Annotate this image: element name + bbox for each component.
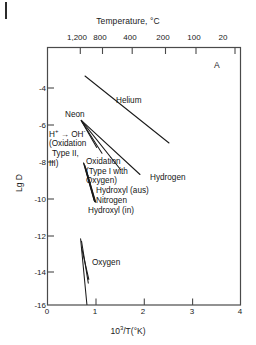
annotation-oxygen: Oxygen [92, 258, 120, 268]
annotation-oh-line4: III) [49, 159, 86, 169]
top-axis-ticks [80, 48, 235, 55]
annotation-neon: Neon [65, 110, 85, 120]
annotation-oh-block: H+ → OH- (Oxidation Type II, III) [49, 127, 86, 168]
annotation-nitrogen: Nitrogen [96, 196, 127, 206]
annotation-hydroxyl-aus: Hydroxyl (aus) [96, 186, 149, 196]
annotation-oxidation-line3: Oxygen) [86, 176, 128, 186]
axes-frame [48, 48, 241, 306]
left-axis-ticks [48, 88, 55, 272]
line-helium [85, 76, 169, 143]
annotation-oxidation-block: Oxidation (Type I with Oxygen) [86, 157, 128, 186]
annotation-oxidation-line2: (Type I with [86, 167, 128, 177]
annotation-hydrogen: Hydrogen [150, 173, 186, 183]
annotation-oh-line3: Type II, [49, 149, 86, 159]
bottom-axis-ticks [96, 299, 193, 306]
annotation-helium: Helium [116, 96, 141, 106]
annotation-oxidation-line1: Oxidation [86, 157, 128, 167]
annotation-oh-line1: H+ → OH- [49, 127, 86, 139]
annotation-hydroxyl-in: Hydroxyl (in) [88, 206, 134, 216]
diffusion-arrhenius-figure: Temperature, °C 1,200 800 400 200 100 20… [0, 0, 256, 345]
plot-frame [48, 48, 241, 306]
annotation-oh-line2: (Oxidation [49, 139, 86, 149]
plot-canvas [0, 0, 256, 345]
